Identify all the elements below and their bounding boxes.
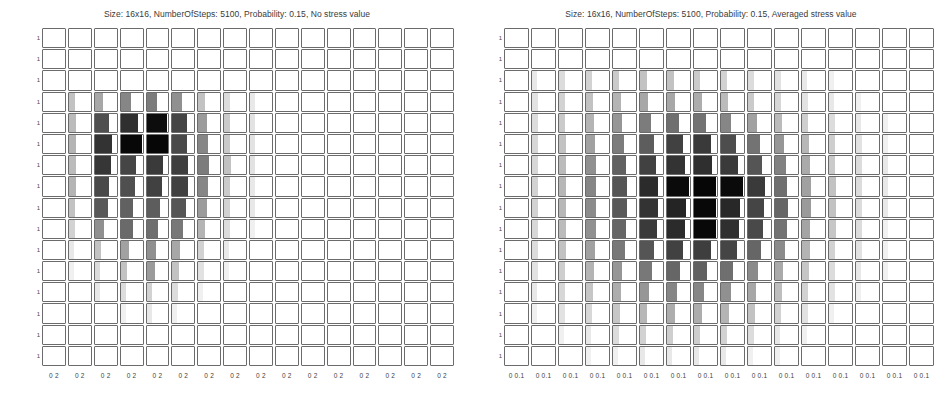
subplot-bar	[532, 241, 538, 259]
x-tick-label: 0 0.1	[882, 372, 907, 379]
x-tick-label: 0 2	[223, 372, 247, 379]
subplot-bar	[883, 156, 888, 174]
subplot-cell	[42, 325, 66, 345]
subplot-bar	[198, 199, 207, 217]
subplot-cell	[120, 198, 144, 218]
subplot-cell	[612, 113, 637, 133]
subplot-cell	[249, 176, 273, 196]
subplot-bar	[613, 71, 619, 89]
subplot-bar	[95, 177, 110, 195]
subplot-cell	[275, 325, 299, 345]
subplot-cell	[504, 155, 529, 175]
subplot-cell	[585, 261, 610, 281]
subplot-cell	[249, 303, 273, 323]
subplot-bar	[640, 347, 645, 365]
subplot-cell	[120, 219, 144, 239]
subplot-cell	[327, 49, 351, 69]
subplot-cell	[378, 70, 402, 90]
subplot-cell	[223, 155, 247, 175]
subplot-bar	[613, 220, 626, 238]
subplot-bar	[69, 156, 76, 174]
subplot-cell	[223, 240, 247, 260]
subplot-cell	[666, 240, 691, 260]
subplot-cell	[747, 113, 772, 133]
subplot-bar	[856, 283, 861, 301]
subplot-bar	[69, 114, 76, 132]
subplot-cell	[275, 240, 299, 260]
subplot-bar	[694, 283, 704, 301]
subplot-cell	[747, 261, 772, 281]
subplot-bar	[613, 177, 627, 195]
subplot-bar	[667, 177, 689, 195]
x-tick-label: 0 2	[197, 372, 221, 379]
subplot-cell	[68, 325, 92, 345]
subplot-bar	[559, 304, 565, 322]
x-tick-label: 0 0.1	[666, 372, 691, 379]
subplot-cell	[558, 28, 583, 48]
subplot-cell	[430, 176, 454, 196]
subplot-cell	[430, 70, 454, 90]
subplot-bar	[721, 177, 743, 195]
subplot-cell	[531, 198, 556, 218]
subplot-cell	[855, 198, 880, 218]
subplot-cell	[404, 28, 428, 48]
subplot-cell	[558, 240, 583, 260]
subplot-cell	[353, 176, 377, 196]
subplot-cell	[223, 134, 247, 154]
subplot-bar	[147, 114, 168, 132]
subplot-cell	[693, 261, 718, 281]
subplot-bar	[69, 177, 76, 195]
subplot-cell	[223, 70, 247, 90]
subplot-cell	[801, 92, 826, 112]
subplot-cell	[828, 155, 853, 175]
subplot-cell	[666, 282, 691, 302]
subplot-cell	[68, 198, 92, 218]
subplot-cell	[146, 303, 170, 323]
subplot-cell	[197, 303, 221, 323]
subplot-cell	[120, 155, 144, 175]
subplot-bar	[559, 135, 566, 153]
subplot-cell	[531, 28, 556, 48]
subplot-cell	[720, 176, 745, 196]
subplot-cell	[882, 261, 907, 281]
subplot-cell	[720, 346, 745, 366]
subplot-cell	[430, 346, 454, 366]
subplot-cell	[909, 282, 934, 302]
subplot-bar	[694, 93, 702, 111]
subplot-bar	[802, 283, 808, 301]
x-tick-label: 0 2	[404, 372, 428, 379]
subplot-cell	[197, 70, 221, 90]
subplot-cell	[223, 282, 247, 302]
subplot-cell	[531, 176, 556, 196]
subplot-cell	[801, 346, 826, 366]
subplot-bar	[532, 199, 538, 217]
subplot-cell	[666, 28, 691, 48]
subplot-cell	[855, 240, 880, 260]
subplot-cell	[197, 113, 221, 133]
subplot-cell	[249, 240, 273, 260]
subplot-cell	[801, 176, 826, 196]
subplot-cell	[94, 113, 118, 133]
subplot-bar	[224, 241, 229, 259]
subplot-cell	[909, 70, 934, 90]
panel-no-stress-value: Size: 16x16, NumberOfSteps: 5100, Probab…	[0, 0, 474, 398]
x-tick-label: 0 0.1	[531, 372, 556, 379]
subplot-bar	[802, 220, 810, 238]
subplot-cell	[774, 49, 799, 69]
x-axis-labels-left: 0 20 20 20 20 20 20 20 20 20 20 20 20 20…	[42, 372, 454, 379]
subplot-bar	[147, 241, 156, 259]
subplot-bar	[775, 283, 782, 301]
subplot-cell	[120, 28, 144, 48]
subplot-cell	[430, 49, 454, 69]
subplot-bar	[748, 283, 756, 301]
subplot-cell	[747, 240, 772, 260]
subplot-bar	[667, 199, 686, 217]
subplot-cell	[42, 303, 66, 323]
subplot-cell	[430, 113, 454, 133]
subplot-bar	[721, 262, 733, 280]
subplot-cell	[171, 49, 195, 69]
subplot-bar	[121, 93, 131, 111]
subplot-bar	[829, 199, 836, 217]
subplot-bar	[198, 135, 208, 153]
subplot-bar	[721, 114, 731, 132]
